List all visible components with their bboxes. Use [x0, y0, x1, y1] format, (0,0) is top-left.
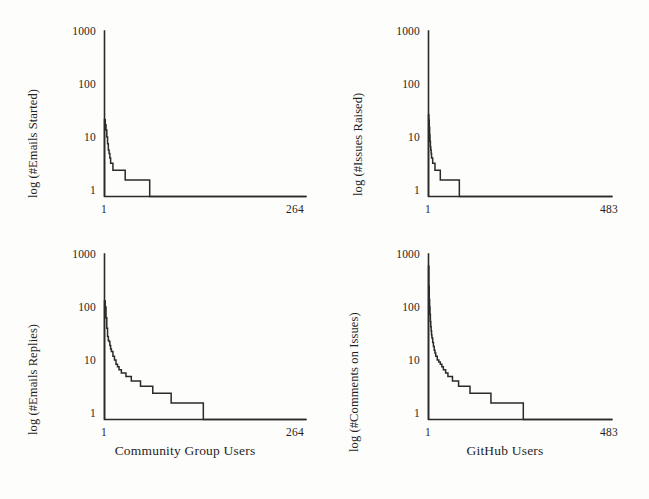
panel-top-left: log (#Emails Started) 1000 100 10 1 1 26…: [0, 0, 325, 250]
panel-bottom-left: log (#Emails Replies) 1000 100 10 1 1 26…: [0, 240, 325, 499]
plot-area-top-right: [325, 0, 649, 250]
plot-area-bottom-left: [0, 240, 325, 499]
plot-area-bottom-right: [325, 240, 649, 499]
data-curve: [429, 266, 613, 419]
axis-lines: [105, 254, 307, 420]
plot-area-top-left: [0, 0, 325, 250]
panel-bottom-right: log (#Comments on Issues) 1000 100 10 1 …: [325, 240, 649, 499]
panel-top-right: log (#Issues Raised) 1000 100 10 1 1 483: [325, 0, 649, 250]
axis-lines: [105, 31, 307, 197]
data-curve: [105, 301, 307, 419]
data-curve: [105, 119, 307, 196]
figure-canvas: log (#Emails Started) 1000 100 10 1 1 26…: [0, 0, 649, 499]
axis-lines: [429, 31, 613, 197]
axis-lines: [429, 254, 613, 420]
data-curve: [429, 115, 613, 196]
